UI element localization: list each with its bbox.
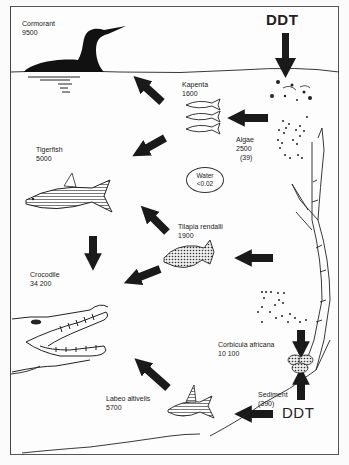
node-name: Labeo altivelis bbox=[106, 394, 150, 403]
food-web-drawing bbox=[0, 0, 349, 465]
ddt-top-arrow-icon bbox=[275, 33, 296, 78]
node-name: Corbicula africana bbox=[218, 340, 274, 349]
algae-particles-icon bbox=[270, 80, 312, 101]
node-value: 34 200 bbox=[30, 279, 60, 288]
node-tigerfish: Tigerfish 5000 bbox=[36, 145, 63, 163]
node-sediment: Sediment (390) bbox=[258, 390, 288, 408]
algae-dots bbox=[277, 116, 308, 159]
labeo-fish-icon bbox=[168, 385, 214, 418]
node-value: 5700 bbox=[106, 403, 150, 412]
tilapia-fish-icon bbox=[164, 240, 214, 268]
arrow-kapenta-to-tigerfish bbox=[140, 138, 165, 152]
arrow-labeo-to-crocodile bbox=[141, 364, 168, 388]
node-name: Tilapia rendalli bbox=[178, 222, 223, 231]
node-value: 1600 bbox=[182, 89, 208, 98]
node-tilapia: Tilapia rendalli 1900 bbox=[178, 222, 223, 240]
crocodile-icon bbox=[12, 305, 108, 372]
corbicula-clam-icon bbox=[288, 355, 313, 373]
node-crocodile: Crocodile 34 200 bbox=[30, 270, 60, 288]
node-value: (390) bbox=[258, 399, 288, 408]
node-labeo: Labeo altivelis 5700 bbox=[106, 394, 150, 412]
arrow-tilapia-to-crocodile bbox=[132, 269, 160, 280]
node-secondary-value: (39) bbox=[236, 153, 254, 162]
kapenta-fish-icon bbox=[186, 99, 220, 134]
lake-bottom-line bbox=[22, 434, 200, 453]
node-kapenta: Kapenta 1600 bbox=[182, 80, 208, 98]
lower-particles-icon bbox=[257, 291, 307, 323]
node-name: Tigerfish bbox=[36, 145, 63, 154]
node-name: Crocodile bbox=[30, 270, 60, 279]
node-water: Water <0.02 bbox=[186, 167, 224, 193]
node-cormorant: Cormorant 9500 bbox=[22, 19, 55, 37]
arrow-tilapia-to-tigerfish bbox=[147, 212, 167, 232]
node-name: Cormorant bbox=[22, 19, 55, 28]
tigerfish-icon bbox=[26, 173, 112, 212]
node-value: 2500 bbox=[236, 144, 254, 153]
node-algae: Algae 2500 (39) bbox=[236, 135, 254, 162]
node-value: 5000 bbox=[36, 154, 63, 163]
node-value: 10 100 bbox=[218, 349, 274, 358]
arrow-kapenta-to-cormorant bbox=[140, 82, 162, 102]
node-value: <0.02 bbox=[187, 180, 223, 188]
node-name: Algae bbox=[236, 135, 254, 144]
node-value: 1900 bbox=[178, 231, 223, 240]
ddt-source-top-label: DDT bbox=[266, 11, 298, 28]
node-name: Kapenta bbox=[182, 80, 208, 89]
node-value: 9500 bbox=[22, 28, 55, 37]
node-corbicula: Corbicula africana 10 100 bbox=[218, 340, 274, 358]
node-name: Water bbox=[187, 172, 223, 180]
node-name: Sediment bbox=[258, 390, 288, 399]
